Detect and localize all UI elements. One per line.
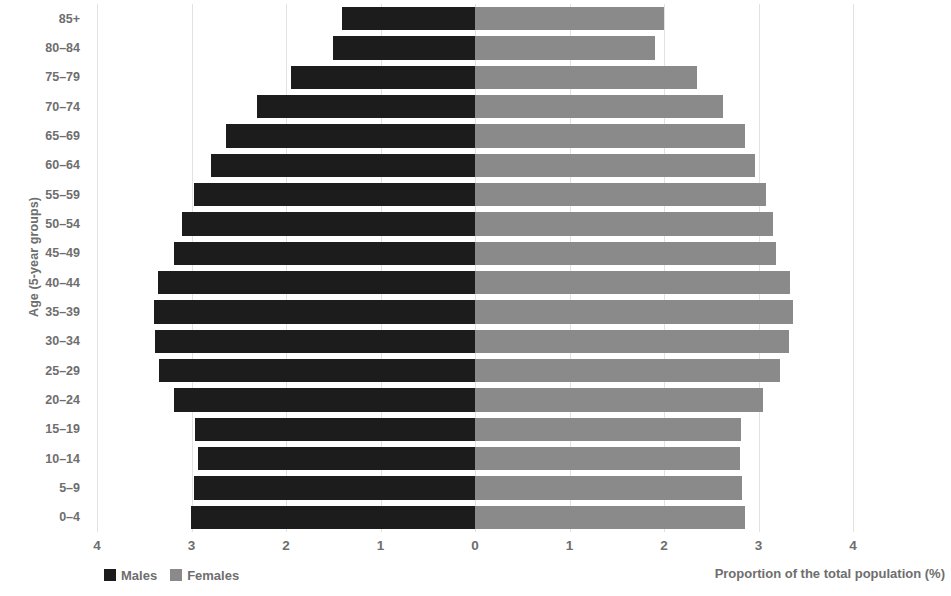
bar-row — [97, 95, 853, 118]
y-axis-tick-labels: 0–45–910–1415–1920–2425–2930–3435–3940–4… — [0, 4, 90, 532]
bar-row — [97, 476, 853, 499]
bar-female — [475, 447, 740, 470]
legend-label: Males — [121, 568, 157, 583]
y-axis-tick-label: 50–54 — [45, 218, 80, 231]
y-axis-tick-label: 55–59 — [45, 189, 80, 202]
y-axis-tick-label: 60–64 — [45, 159, 80, 172]
y-axis-tick-label: 40–44 — [45, 277, 80, 290]
bar-male — [154, 300, 475, 323]
legend-item: Males — [104, 568, 157, 583]
x-axis-tick-label: 1 — [550, 538, 590, 553]
bar-row — [97, 154, 853, 177]
bar-male — [195, 418, 475, 441]
bar-row — [97, 388, 853, 411]
bar-female — [475, 36, 655, 59]
bar-row — [97, 66, 853, 89]
bars-layer — [97, 4, 853, 532]
bar-female — [475, 7, 664, 30]
bar-female — [475, 271, 790, 294]
y-axis-tick-label: 15–19 — [45, 423, 80, 436]
bar-male — [159, 359, 475, 382]
bar-row — [97, 7, 853, 30]
x-axis-tick-label: 4 — [833, 538, 873, 553]
bar-male — [211, 154, 475, 177]
y-axis-tick-label: 30–34 — [45, 335, 80, 348]
x-axis-tick-label: 3 — [172, 538, 212, 553]
bar-female — [475, 242, 776, 265]
bar-female — [475, 300, 793, 323]
bar-female — [475, 66, 697, 89]
bar-row — [97, 242, 853, 265]
y-axis-tick-label: 35–39 — [45, 306, 80, 319]
bar-row — [97, 124, 853, 147]
bar-male — [198, 447, 475, 470]
y-axis-tick-label: 20–24 — [45, 394, 80, 407]
legend-item: Females — [170, 568, 239, 583]
bar-female — [475, 476, 742, 499]
bar-female — [475, 506, 745, 529]
bar-row — [97, 359, 853, 382]
x-axis-tick-label: 1 — [361, 538, 401, 553]
plot-area — [97, 4, 853, 532]
bar-male — [155, 330, 475, 353]
bar-female — [475, 154, 755, 177]
bar-female — [475, 418, 741, 441]
bar-male — [333, 36, 475, 59]
bar-male — [182, 212, 475, 235]
bar-male — [174, 388, 475, 411]
bar-male — [257, 95, 475, 118]
population-pyramid-chart: Age (5-year groups) 0–45–910–1415–1920–2… — [0, 0, 951, 596]
bar-row — [97, 330, 853, 353]
x-axis-tick-labels: 432101234 — [97, 538, 853, 560]
bar-row — [97, 300, 853, 323]
bar-female — [475, 330, 789, 353]
y-axis-tick-label: 5–9 — [59, 482, 80, 495]
bar-row — [97, 271, 853, 294]
bar-male — [194, 476, 475, 499]
x-axis-tick-label: 3 — [739, 538, 779, 553]
gridline — [853, 4, 854, 532]
bar-female — [475, 124, 745, 147]
y-axis-tick-label: 0–4 — [59, 511, 80, 524]
y-axis-tick-label: 10–14 — [45, 453, 80, 466]
bar-female — [475, 212, 773, 235]
bar-male — [226, 124, 475, 147]
bar-male — [174, 242, 475, 265]
bar-female — [475, 183, 766, 206]
chart-legend: MalesFemales — [104, 566, 245, 584]
x-axis-tick-label: 4 — [77, 538, 117, 553]
x-axis-title: Proportion of the total population (%) — [715, 566, 945, 581]
bar-row — [97, 212, 853, 235]
y-axis-tick-label: 85+ — [59, 13, 80, 26]
legend-label: Females — [187, 568, 239, 583]
legend-swatch-icon — [170, 569, 182, 581]
y-axis-tick-label: 65–69 — [45, 130, 80, 143]
bar-row — [97, 418, 853, 441]
bar-row — [97, 183, 853, 206]
y-axis-tick-label: 70–74 — [45, 101, 80, 114]
legend-swatch-icon — [104, 569, 116, 581]
y-axis-tick-label: 75–79 — [45, 71, 80, 84]
y-axis-tick-label: 80–84 — [45, 42, 80, 55]
bar-female — [475, 359, 780, 382]
x-axis-tick-label: 2 — [644, 538, 684, 553]
bar-female — [475, 388, 763, 411]
y-axis-tick-label: 45–49 — [45, 247, 80, 260]
x-axis-tick-label: 0 — [455, 538, 495, 553]
bar-male — [194, 183, 475, 206]
x-axis-tick-label: 2 — [266, 538, 306, 553]
bar-row — [97, 447, 853, 470]
bar-male — [191, 506, 475, 529]
bar-male — [342, 7, 475, 30]
bar-row — [97, 506, 853, 529]
bar-female — [475, 95, 723, 118]
bar-male — [158, 271, 475, 294]
bar-male — [291, 66, 475, 89]
bar-row — [97, 36, 853, 59]
y-axis-tick-label: 25–29 — [45, 365, 80, 378]
